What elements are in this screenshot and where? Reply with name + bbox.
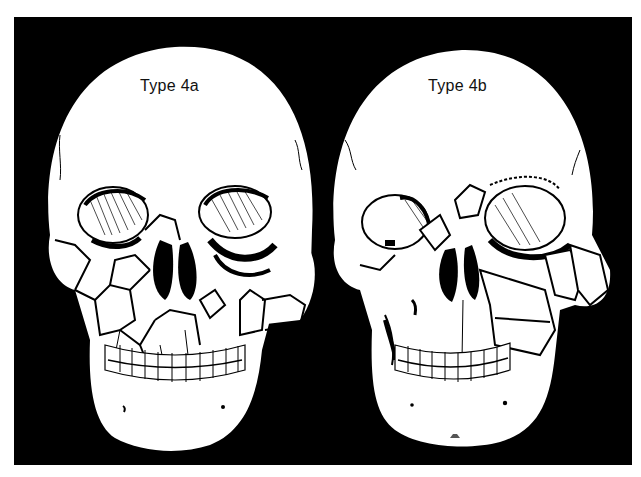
panel-label-type-4b: Type 4b bbox=[428, 77, 487, 95]
skull-type-4a bbox=[48, 47, 315, 451]
panel-label-type-4a: Type 4a bbox=[140, 77, 199, 95]
skull-illustrations bbox=[0, 0, 641, 477]
skull-type-4b bbox=[333, 50, 610, 447]
